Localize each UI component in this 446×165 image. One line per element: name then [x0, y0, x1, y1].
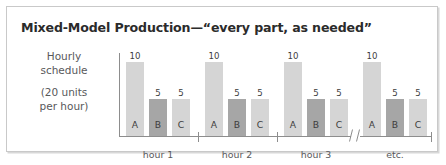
caption-line-2: schedule [15, 64, 113, 78]
x-axis-tick [198, 132, 199, 142]
bar-group: A10B5C5etc. [363, 47, 433, 145]
bar-letter-label: A [205, 119, 223, 130]
bar-group: A10B5C5hour 2 [205, 47, 275, 145]
y-axis-line [119, 53, 120, 137]
bar-b[interactable]: B5 [228, 99, 246, 136]
caption-line-3: (20 units [15, 86, 113, 100]
bar-group-bars: A10B5C5 [284, 56, 354, 136]
bar-group: A10B5C5hour 3 [284, 47, 354, 145]
bar-rect [251, 99, 269, 136]
bar-letter-label: B [386, 119, 404, 130]
bar-rect [307, 99, 325, 136]
figure-frame: Mixed-Model Production—“every part, as n… [6, 6, 438, 152]
x-axis-group-label: hour 2 [205, 149, 269, 160]
caption-line-4: per hour) [15, 100, 113, 114]
bar-value-label: 5 [330, 88, 348, 98]
bar-a[interactable]: A10 [205, 62, 223, 136]
bar-value-label: 10 [363, 51, 381, 61]
bar-value-label: 5 [149, 88, 167, 98]
bar-rect [172, 99, 190, 136]
bar-letter-label: B [228, 119, 246, 130]
caption-spacer [15, 77, 113, 86]
bar-value-label: 5 [386, 88, 404, 98]
chart-caption: Hourly schedule (20 units per hour) [15, 50, 113, 113]
bar-chart-plot: A10B5C5hour 1A10B5C5hour 2A10B5C5hour 3A… [119, 47, 431, 145]
bar-c[interactable]: C5 [330, 99, 348, 136]
bar-letter-label: C [330, 119, 348, 130]
bar-letter-label: A [126, 119, 144, 130]
axis-break-icon [347, 129, 364, 142]
bar-value-label: 5 [228, 88, 246, 98]
bar-rect [386, 99, 404, 136]
bar-rect [149, 99, 167, 136]
bar-value-label: 5 [307, 88, 325, 98]
x-axis-tick [431, 132, 432, 142]
bar-rect [330, 99, 348, 136]
bar-value-label: 10 [126, 51, 144, 61]
bar-a[interactable]: A10 [126, 62, 144, 136]
bar-rect [228, 99, 246, 136]
bar-group: A10B5C5hour 1 [126, 47, 196, 145]
bar-a[interactable]: A10 [363, 62, 381, 136]
bar-group-bars: A10B5C5 [363, 56, 433, 136]
bar-letter-label: A [284, 119, 302, 130]
bar-b[interactable]: B5 [149, 99, 167, 136]
bar-value-label: 5 [251, 88, 269, 98]
bar-letter-label: C [251, 119, 269, 130]
x-axis-group-label: etc. [363, 149, 427, 160]
page-title: Mixed-Model Production—“every part, as n… [21, 20, 372, 35]
bar-value-label: 10 [284, 51, 302, 61]
bar-letter-label: A [363, 119, 381, 130]
bar-letter-label: B [149, 119, 167, 130]
bar-value-label: 10 [205, 51, 223, 61]
bar-c[interactable]: C5 [172, 99, 190, 136]
bar-rect [409, 99, 427, 136]
bar-group-bars: A10B5C5 [205, 56, 275, 136]
bar-a[interactable]: A10 [284, 62, 302, 136]
bar-c[interactable]: C5 [409, 99, 427, 136]
caption-line-1: Hourly [15, 50, 113, 64]
bar-c[interactable]: C5 [251, 99, 269, 136]
bar-group-bars: A10B5C5 [126, 56, 196, 136]
x-axis-group-label: hour 3 [284, 149, 348, 160]
bar-value-label: 5 [409, 88, 427, 98]
bar-letter-label: C [409, 119, 427, 130]
bar-b[interactable]: B5 [307, 99, 325, 136]
x-axis-tick [277, 132, 278, 142]
bar-value-label: 5 [172, 88, 190, 98]
bar-b[interactable]: B5 [386, 99, 404, 136]
bar-letter-label: B [307, 119, 325, 130]
x-axis-group-label: hour 1 [126, 149, 190, 160]
bar-letter-label: C [172, 119, 190, 130]
